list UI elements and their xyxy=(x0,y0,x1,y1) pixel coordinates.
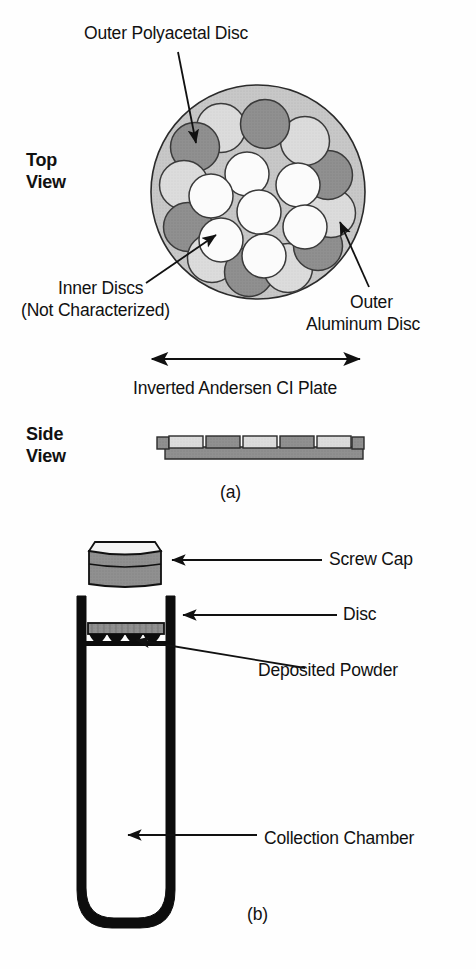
outer-disc-2 xyxy=(171,123,220,172)
inner-disc-7 xyxy=(242,234,286,278)
outer-disc-10 xyxy=(304,151,353,200)
top-view-line1: Top xyxy=(26,150,57,170)
screw-cap-ridge xyxy=(89,564,161,567)
outer-disc-6 xyxy=(225,248,274,297)
label-top-view: TopView xyxy=(26,149,66,193)
collection-chamber-group xyxy=(77,596,175,928)
inner-disc-6 xyxy=(199,218,243,262)
label-inverted-plate: Inverted Andersen CI Plate xyxy=(133,378,337,399)
screw-cap-group xyxy=(89,542,161,587)
chamber-lip-right xyxy=(166,596,175,602)
outer-disc-9 xyxy=(307,189,356,238)
chamber-shoulder-right xyxy=(166,640,175,648)
inner-disc-cluster xyxy=(189,152,327,278)
label-deposited-powder: Deposited Powder xyxy=(258,660,398,681)
label-outer-aluminum-line1: Outer xyxy=(350,292,393,313)
chamber-disc-group xyxy=(88,623,164,634)
plate-outer-circle xyxy=(151,85,365,299)
label-outer-polyacetal-disc: Outer Polyacetal Disc xyxy=(84,23,248,44)
leader-outer-aluminum xyxy=(340,222,369,287)
figure-page: Outer Polyacetal Disc TopView Inner Disc… xyxy=(0,0,476,969)
side-view-right-end xyxy=(352,437,364,449)
label-collection-chamber: Collection Chamber xyxy=(264,828,414,849)
label-disc: Disc xyxy=(343,604,376,625)
label-outer-aluminum-line2: Aluminum Disc xyxy=(306,314,420,335)
side-view-segment-5 xyxy=(317,436,351,448)
outer-disc-3 xyxy=(160,161,209,210)
chamber-lip-left xyxy=(77,596,86,602)
side-view-segment-2 xyxy=(206,436,240,448)
outer-disc-1 xyxy=(197,104,246,153)
side-view-left-end xyxy=(157,437,169,449)
side-view-segment-3 xyxy=(243,436,277,448)
top-view-plate-group xyxy=(151,85,365,299)
top-view-line2: View xyxy=(26,172,66,192)
outer-disc-12 xyxy=(241,100,290,149)
outer-disc-4 xyxy=(164,203,213,252)
label-side-view: SideView xyxy=(26,423,66,467)
outer-disc-11 xyxy=(281,117,330,166)
chamber-disc-hatching xyxy=(92,624,158,633)
side-view-segment-1 xyxy=(169,436,203,448)
outer-disc-7 xyxy=(264,244,313,293)
side-view-base-slab xyxy=(165,447,363,459)
caption-a: (a) xyxy=(220,482,241,503)
label-screw-cap: Screw Cap xyxy=(329,549,413,570)
screw-cap-body xyxy=(89,551,161,587)
outer-disc-5 xyxy=(188,234,237,283)
label-inner-discs-line1: Inner Discs xyxy=(58,278,143,299)
chamber-disc xyxy=(88,623,164,634)
inner-disc-5 xyxy=(283,205,327,249)
leader-inner-discs xyxy=(146,235,216,283)
chamber-wall xyxy=(77,596,175,928)
screw-cap-top-face xyxy=(89,542,161,555)
chamber-shoulder-left xyxy=(77,640,86,648)
chamber-inner-ledge xyxy=(86,641,166,646)
outer-disc-ring xyxy=(160,100,356,297)
inner-disc-2 xyxy=(276,163,320,207)
deposited-powder-scallops xyxy=(89,634,161,643)
inner-disc-4 xyxy=(237,190,281,234)
side-view-line1: Side xyxy=(26,424,63,444)
inner-disc-1 xyxy=(225,152,269,196)
caption-b: (b) xyxy=(247,904,268,925)
leader-outer-polyacetal xyxy=(178,52,196,143)
side-view-segment-4 xyxy=(280,436,314,448)
label-inner-discs-line2: (Not Characterized) xyxy=(21,300,170,321)
inner-disc-3 xyxy=(189,174,233,218)
side-view-line2: View xyxy=(26,446,66,466)
side-view-plate-group xyxy=(157,436,364,459)
outer-disc-8 xyxy=(294,222,343,271)
